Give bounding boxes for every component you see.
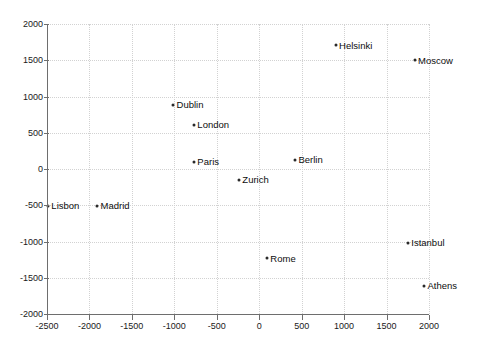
data-point: Berlin <box>293 158 296 161</box>
gridline-vertical <box>429 24 430 314</box>
y-tick-label: 1000 <box>23 92 43 101</box>
gridline-horizontal <box>47 24 429 25</box>
data-point: London <box>192 123 195 126</box>
y-tick-label: -500 <box>25 201 43 210</box>
gridline-horizontal <box>47 60 429 61</box>
x-tick-mark <box>259 315 260 320</box>
point-label: Dublin <box>177 100 204 110</box>
y-tick-label: -2000 <box>20 310 43 319</box>
data-point: Paris <box>192 160 195 163</box>
point-marker <box>293 158 296 161</box>
point-label: Madrid <box>101 201 130 211</box>
point-label: Athens <box>427 281 457 291</box>
point-label: Helsinki <box>339 40 372 50</box>
point-marker <box>334 44 337 47</box>
x-tick-label: 0 <box>257 322 262 331</box>
y-axis: -2000-1500-1000-5000500100015002000 <box>47 24 48 315</box>
y-tick-mark <box>44 169 49 170</box>
x-tick-mark <box>89 315 90 320</box>
point-label: Istanbul <box>411 238 444 248</box>
gridline-horizontal <box>47 133 429 134</box>
gridline-horizontal <box>47 242 429 243</box>
y-tick-mark <box>44 242 49 243</box>
point-label: Rome <box>270 253 295 263</box>
y-tick-mark <box>44 60 49 61</box>
point-marker <box>237 178 240 181</box>
y-tick-mark <box>44 24 49 25</box>
y-tick-mark <box>44 205 49 206</box>
point-marker <box>172 103 175 106</box>
y-tick-mark <box>44 278 49 279</box>
x-tick-label: -2000 <box>78 322 101 331</box>
point-label: London <box>197 120 229 130</box>
point-label: Zurich <box>242 175 268 185</box>
point-marker <box>406 241 409 244</box>
y-tick-label: 0 <box>38 165 43 174</box>
y-tick-label: -1000 <box>20 237 43 246</box>
x-tick-mark <box>344 315 345 320</box>
point-label: Paris <box>197 157 219 167</box>
data-point: Zurich <box>237 178 240 181</box>
point-marker <box>265 257 268 260</box>
data-point: Moscow <box>413 59 416 62</box>
point-label: Moscow <box>418 56 453 66</box>
plot-area: HelsinkiMoscowDublinLondonParisBerlinZur… <box>47 24 429 314</box>
point-marker <box>192 160 195 163</box>
point-marker <box>422 284 425 287</box>
x-tick-mark <box>217 315 218 320</box>
y-tick-label: 1500 <box>23 56 43 65</box>
x-tick-label: 1500 <box>377 322 397 331</box>
data-point: Helsinki <box>334 44 337 47</box>
x-tick-mark <box>47 315 48 320</box>
data-point: Dublin <box>172 103 175 106</box>
data-point: Athens <box>422 284 425 287</box>
data-point: Istanbul <box>406 241 409 244</box>
point-marker <box>192 123 195 126</box>
x-tick-mark <box>132 315 133 320</box>
x-tick-label: -2500 <box>35 322 58 331</box>
x-tick-label: -1500 <box>120 322 143 331</box>
x-tick-label: -1000 <box>163 322 186 331</box>
y-tick-label: -1500 <box>20 273 43 282</box>
point-marker <box>96 204 99 207</box>
x-tick-label: -500 <box>208 322 226 331</box>
x-axis: -2500-2000-1500-1000-5000500100015002000 <box>47 314 429 315</box>
point-label: Berlin <box>298 155 322 165</box>
x-tick-mark <box>387 315 388 320</box>
data-point: Madrid <box>96 204 99 207</box>
point-label: Lisbon <box>51 201 79 211</box>
y-tick-label: 500 <box>28 128 43 137</box>
data-point: Rome <box>265 257 268 260</box>
point-marker <box>413 59 416 62</box>
y-tick-mark <box>44 133 49 134</box>
scatter-plot-figure: HelsinkiMoscowDublinLondonParisBerlinZur… <box>0 0 477 347</box>
x-tick-mark <box>302 315 303 320</box>
y-tick-mark <box>44 97 49 98</box>
gridline-horizontal <box>47 278 429 279</box>
x-tick-label: 2000 <box>419 322 439 331</box>
gridline-horizontal <box>47 97 429 98</box>
x-tick-label: 500 <box>294 322 309 331</box>
x-tick-mark <box>429 315 430 320</box>
gridline-horizontal <box>47 169 429 170</box>
y-tick-label: 2000 <box>23 20 43 29</box>
x-tick-label: 1000 <box>334 322 354 331</box>
x-tick-mark <box>174 315 175 320</box>
